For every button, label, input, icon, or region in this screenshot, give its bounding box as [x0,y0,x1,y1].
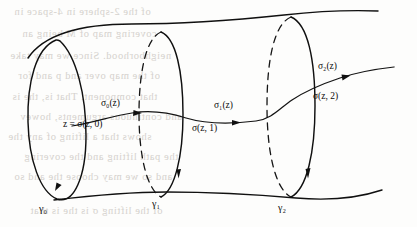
gamma1-back-half-dashed [139,32,161,197]
label-point-sigma-z-1: σ(z, 1) [192,124,217,134]
sigma1-direction-arrowhead [232,120,241,126]
tube-top-outline [28,11,378,58]
label-sigma-0: σ₀(z) [101,99,120,109]
figure-container: of the 2-sphere in 4-space in covering m… [0,0,417,227]
gamma2-front-half [291,17,315,197]
label-gamma-1: γ₁ [152,199,160,209]
label-point-sigma-z-2: σ(z, 2) [313,92,338,102]
label-point-sigma-z-0: z = σ(z, 0) [63,120,103,130]
gamma1-direction-arrowhead [177,169,182,179]
label-gamma-0: γ₀ [39,204,47,214]
label-sigma-2: σ₂(z) [318,62,337,72]
label-gamma-2: γ₂ [278,203,286,213]
sigma2-direction-arrowhead [342,75,351,81]
tube-diagram-svg [0,0,417,227]
gamma2-back-half-dashed [267,17,291,197]
tube-bottom-outline [54,190,382,200]
sigma0-direction-arrowhead [133,110,142,116]
gamma0-direction-arrowhead [55,183,62,192]
label-sigma-1: σ₁(z) [214,101,233,111]
